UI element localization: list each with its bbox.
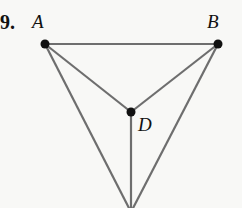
point-a bbox=[41, 40, 50, 49]
segment-ad bbox=[45, 44, 131, 112]
vertices bbox=[41, 40, 223, 117]
label-a: A bbox=[30, 11, 44, 32]
point-d bbox=[127, 108, 136, 117]
geometry-figure: 9. A B D bbox=[0, 0, 242, 208]
label-b: B bbox=[207, 11, 219, 32]
triangle-diagram: 9. A B D bbox=[0, 0, 242, 208]
segments bbox=[45, 44, 218, 208]
label-d: D bbox=[137, 114, 152, 135]
problem-number: 9. bbox=[0, 11, 15, 33]
point-b bbox=[214, 40, 223, 49]
segment-ac bbox=[45, 44, 131, 208]
segment-bd bbox=[131, 44, 218, 112]
